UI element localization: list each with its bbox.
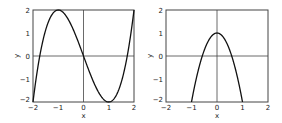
plot-right: 2 1 0 −1 −2 −2 −1 0 1 2 x y xyxy=(146,7,270,121)
y-tick: 1 xyxy=(159,30,163,38)
y-axis-label: y xyxy=(146,54,154,58)
figure: 2 1 0 −1 −2 −2 −1 0 1 2 x y 2 1 0 −1 −2 … xyxy=(0,0,282,123)
x-tick: 1 xyxy=(240,104,244,112)
y-tick: 2 xyxy=(159,7,163,15)
y-tick: 2 xyxy=(26,7,30,15)
y-tick: −1 xyxy=(20,76,30,84)
y-tick: 1 xyxy=(26,30,30,38)
x-tick: 2 xyxy=(132,104,136,112)
y-tick: −2 xyxy=(153,96,163,104)
x-tick: 0 xyxy=(81,104,85,112)
y-tick: 0 xyxy=(159,53,163,61)
x-tick: 0 xyxy=(215,104,219,112)
x-tick: −2 xyxy=(161,104,171,112)
plot-left: 2 1 0 −1 −2 −2 −1 0 1 2 x y xyxy=(13,7,136,121)
x-tick-labels: −2 −1 0 1 2 xyxy=(161,104,270,112)
y-axis-label: y xyxy=(13,54,21,58)
x-tick: −1 xyxy=(186,104,196,112)
y-tick: −2 xyxy=(20,96,30,104)
x-tick-labels: −2 −1 0 1 2 xyxy=(28,104,136,112)
y-tick: 0 xyxy=(26,53,30,61)
x-axis-label: x xyxy=(215,112,219,120)
x-axis-label: x xyxy=(81,112,85,120)
y-tick: −1 xyxy=(153,76,163,84)
x-tick: 2 xyxy=(266,104,270,112)
x-tick: −1 xyxy=(53,104,63,112)
y-tick-labels: 2 1 0 −1 −2 xyxy=(153,7,163,105)
x-tick: −2 xyxy=(28,104,38,112)
x-tick: 1 xyxy=(107,104,111,112)
y-tick-labels: 2 1 0 −1 −2 xyxy=(20,7,30,105)
